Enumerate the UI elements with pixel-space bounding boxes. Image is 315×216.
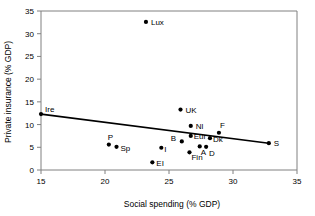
x-tick-label: 25	[165, 177, 174, 186]
data-point-label: S	[274, 139, 279, 148]
x-tick-label: 15	[37, 177, 46, 186]
data-point-marker	[208, 136, 212, 140]
data-point-marker	[189, 124, 193, 128]
x-axis-title: Social spending (% GDP)	[124, 199, 221, 209]
y-tick-label: 5	[30, 143, 35, 152]
x-tick-label: 30	[229, 177, 238, 186]
y-tick-label: 35	[25, 7, 34, 16]
data-point-label: I	[164, 145, 166, 154]
data-point-marker	[144, 20, 148, 24]
data-point-marker	[267, 141, 271, 145]
data-point-label: Ire	[45, 105, 55, 114]
data-point-label: UK	[186, 106, 198, 115]
data-point-label: D	[209, 149, 215, 158]
data-point-marker	[180, 139, 184, 143]
data-point-marker	[114, 145, 118, 149]
data-point-marker	[189, 134, 193, 138]
y-tick-label: 10	[25, 121, 34, 130]
plot-area: 1520253035 05101520253035 IreLuxUKNlFEur…	[0, 0, 315, 216]
x-tick-label: 35	[293, 177, 302, 186]
data-point-label: P	[108, 133, 113, 142]
data-point-marker	[150, 160, 154, 164]
data-point-label: Lux	[151, 18, 164, 27]
y-axis-title: Private insurance (% GDP)	[3, 41, 13, 143]
data-point-label: Eur	[194, 132, 207, 141]
data-point-label: Fin	[191, 153, 202, 162]
data-point-marker	[178, 107, 182, 111]
y-tick-label: 30	[25, 30, 34, 39]
data-point-label: B	[171, 134, 176, 143]
data-point-label: Sp	[121, 144, 131, 153]
data-point-marker	[107, 142, 111, 146]
y-tick-label: 25	[25, 52, 34, 61]
data-point-label: F	[220, 121, 225, 130]
data-point-marker	[39, 112, 43, 116]
y-tick-label: 20	[25, 75, 34, 84]
y-tick-label: 0	[30, 166, 35, 175]
y-tick-label: 15	[25, 98, 34, 107]
data-point-label: Dk	[213, 135, 224, 144]
data-point-label: EI	[156, 159, 164, 168]
data-point-marker	[159, 146, 163, 150]
data-point-label: Nl	[196, 122, 204, 131]
scatter-chart: 1520253035 05101520253035 IreLuxUKNlFEur…	[0, 0, 315, 216]
x-tick-label: 20	[101, 177, 110, 186]
